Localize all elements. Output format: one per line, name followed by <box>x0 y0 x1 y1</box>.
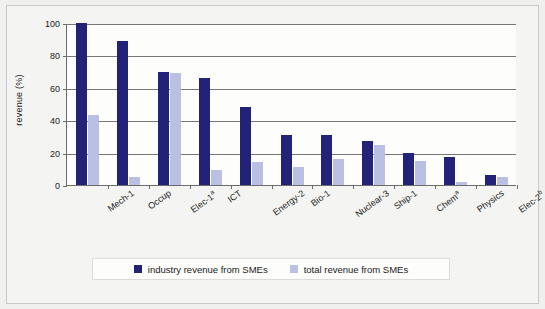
y-tick-mark <box>63 89 67 90</box>
bar-chart-figure: revenue (%) 020406080100 Mech-1OccupElec… <box>0 0 545 309</box>
x-tick-label: Elec-1a <box>188 188 219 215</box>
chart-legend: industry revenue from SMEstotal revenue … <box>92 258 450 280</box>
bar-group <box>199 24 222 185</box>
y-tick-mark <box>63 56 67 57</box>
bar <box>117 41 128 185</box>
legend-label: industry revenue from SMEs <box>148 264 268 275</box>
bar <box>199 78 210 185</box>
chart-screenshot: revenue (%) 020406080100 Mech-1OccupElec… <box>0 0 545 309</box>
bar <box>333 159 344 185</box>
x-tick-label: Physics <box>475 188 506 214</box>
legend-entry: total revenue from SMEs <box>290 264 409 275</box>
bar <box>158 72 169 185</box>
x-axis-tick-labels: Mech-1OccupElec-1aICTEnergy-2Bio-1Nuclea… <box>66 188 516 246</box>
legend-swatch-icon <box>134 265 142 273</box>
bar-group <box>117 24 140 185</box>
plot-area <box>66 24 516 186</box>
x-tick-label: Energy-2 <box>271 188 306 218</box>
legend-label: total revenue from SMEs <box>304 264 409 275</box>
x-tick-label: Bio-1 <box>309 188 332 208</box>
bar-group <box>240 24 263 185</box>
bar <box>415 161 426 185</box>
bar <box>252 162 263 185</box>
bar <box>281 135 292 185</box>
bar-group <box>403 24 426 185</box>
y-tick-label: 0 <box>30 181 60 191</box>
bar-group <box>321 24 344 185</box>
bar <box>362 141 373 185</box>
y-tick-mark <box>63 154 67 155</box>
x-tick-label: Occup <box>146 188 173 211</box>
bar-group <box>444 24 467 185</box>
bar-group <box>362 24 385 185</box>
bar-group <box>485 24 508 185</box>
bar <box>321 135 332 185</box>
bar <box>88 115 99 185</box>
y-tick-label: 20 <box>30 149 60 159</box>
x-tick-label: ICT <box>226 188 244 205</box>
bar <box>293 167 304 185</box>
bar <box>444 157 455 185</box>
x-tick-label: Nuclear-3 <box>353 188 390 219</box>
legend-swatch-icon <box>290 265 298 273</box>
y-tick-mark <box>63 121 67 122</box>
x-tick-label: Ship-1 <box>392 188 419 211</box>
bar <box>374 145 385 186</box>
y-axis-tick-labels: 020406080100 <box>30 24 60 186</box>
bar-group <box>281 24 304 185</box>
bar <box>76 23 87 185</box>
y-tick-mark <box>63 186 67 187</box>
x-tick-mark <box>517 185 518 189</box>
bar-group <box>158 24 181 185</box>
y-tick-mark <box>63 24 67 25</box>
y-tick-label: 40 <box>30 116 60 126</box>
bar <box>211 170 222 185</box>
bar-group <box>76 24 99 185</box>
x-tick-label: Mech-1 <box>106 188 136 214</box>
bar <box>240 107 251 185</box>
bar <box>456 182 467 185</box>
bar <box>485 175 496 185</box>
y-axis-title: revenue (%) <box>14 60 24 140</box>
bar <box>170 73 181 185</box>
bar <box>403 153 414 185</box>
legend-entry: industry revenue from SMEs <box>134 264 268 275</box>
y-tick-label: 60 <box>30 84 60 94</box>
x-tick-label: Elec-2b <box>515 188 545 215</box>
y-tick-label: 80 <box>30 51 60 61</box>
y-tick-label: 100 <box>30 19 60 29</box>
bar <box>497 177 508 185</box>
x-tick-label: Chema <box>433 188 462 214</box>
bar <box>129 177 140 185</box>
